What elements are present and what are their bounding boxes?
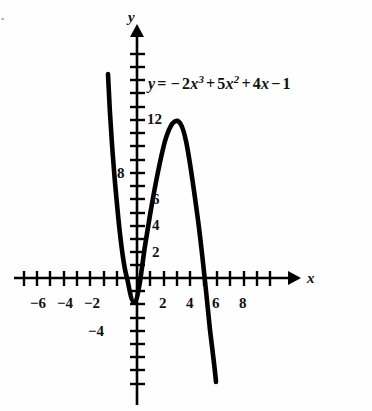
y-tick-label-6: 6 [152, 192, 160, 207]
y-tick-label-8: 8 [117, 166, 125, 181]
x-tick-label-neg2: −2 [84, 296, 100, 311]
y-axis-label: y [128, 10, 135, 25]
equation-term2-coeff: 5 [217, 75, 225, 92]
y-tick-label-12: 12 [147, 112, 162, 127]
y-tick-label-4: 4 [152, 218, 160, 233]
equation-term2-var: x [226, 75, 234, 92]
cubic-curve [108, 74, 216, 382]
equation-op2: + [239, 75, 252, 92]
equation-equals: = [155, 75, 168, 92]
x-tick-label-6: 6 [212, 296, 220, 311]
coordinate-plot [0, 0, 372, 411]
x-tick-label-neg6: −6 [30, 296, 46, 311]
equation-annotation: y=−2x3+5x2+4x−1 [148, 74, 291, 92]
equation-term1-coeff: 2 [182, 75, 190, 92]
equation-term4: 1 [282, 75, 290, 92]
equation-term3-var: x [261, 75, 269, 92]
equation-term1-sign: − [169, 75, 182, 92]
y-tick-label-neg4: −4 [88, 324, 104, 339]
equation-op3: − [269, 75, 282, 92]
x-tick-label-neg4: −4 [57, 296, 73, 311]
y-axis-arrowhead [130, 24, 144, 37]
equation-op1: + [204, 75, 217, 92]
x-tick-label-2: 2 [159, 296, 167, 311]
x-tick-label-8: 8 [239, 296, 247, 311]
figure-canvas: . [0, 0, 372, 411]
x-axis-label: x [307, 271, 315, 286]
y-tick-label-2: 2 [152, 245, 160, 260]
x-axis-arrowhead [288, 271, 301, 285]
equation-term3-coeff: 4 [253, 75, 261, 92]
x-tick-label-4: 4 [186, 296, 194, 311]
